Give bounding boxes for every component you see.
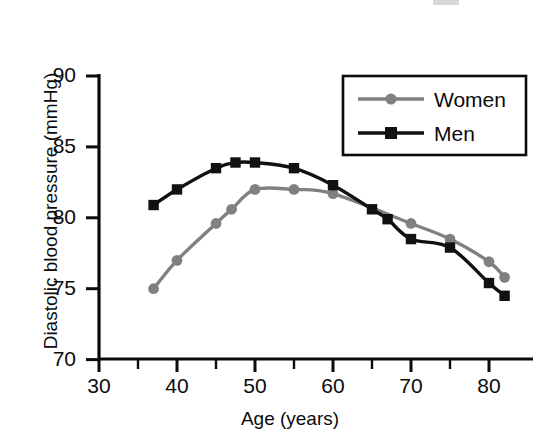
legend-label-women: Women: [434, 88, 506, 112]
data-point: [226, 204, 237, 215]
data-point: [382, 214, 392, 224]
data-point: [367, 204, 377, 214]
legend-marker-women: [385, 93, 396, 104]
data-point: [250, 157, 260, 167]
data-point: [406, 218, 417, 229]
chart-figure: 7075808590 304050607080 Women Men Diasto…: [0, 0, 539, 435]
data-point: [289, 163, 299, 173]
data-point: [499, 272, 510, 283]
y-axis-title: Diastolic blood pressure (mmHg): [40, 56, 62, 366]
series-men: [148, 157, 509, 301]
x-axis-title: Age (years): [180, 408, 400, 430]
data-point: [289, 184, 300, 195]
data-point: [230, 157, 240, 167]
data-point: [484, 256, 495, 267]
legend-label-men: Men: [434, 122, 475, 146]
data-point: [484, 278, 494, 288]
legend-marker-men: [385, 127, 397, 139]
data-point: [148, 200, 158, 210]
x-tick-label-70: 70: [388, 374, 434, 398]
data-point: [499, 291, 509, 301]
data-point: [445, 242, 455, 252]
x-tick-label-30: 30: [76, 374, 122, 398]
data-point: [211, 163, 221, 173]
data-point: [148, 283, 159, 294]
data-point: [406, 234, 416, 244]
data-point: [250, 184, 261, 195]
data-series-layer: [148, 157, 510, 301]
x-axis-ticks: [99, 359, 489, 372]
x-tick-label-50: 50: [232, 374, 278, 398]
data-point: [328, 180, 338, 190]
data-point: [211, 218, 222, 229]
plot-area: [0, 0, 539, 435]
series-women: [148, 184, 510, 294]
x-tick-label-40: 40: [154, 374, 200, 398]
data-point: [172, 255, 183, 266]
data-point: [172, 184, 182, 194]
x-tick-label-60: 60: [310, 374, 356, 398]
x-tick-label-80: 80: [466, 374, 512, 398]
y-axis-ticks: [86, 76, 99, 360]
